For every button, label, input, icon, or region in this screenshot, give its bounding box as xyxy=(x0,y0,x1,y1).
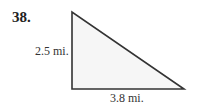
bottom-side-label: 3.8 mi. xyxy=(110,91,144,106)
right-triangle-diagram xyxy=(0,0,199,108)
triangle-shape xyxy=(72,12,184,89)
problem-figure: 38. 2.5 mi. 3.8 mi. xyxy=(0,0,199,108)
left-side-label: 2.5 mi. xyxy=(35,44,69,59)
